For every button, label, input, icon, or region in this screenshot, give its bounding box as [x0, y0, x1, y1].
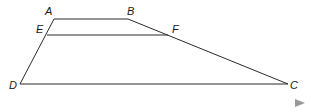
label-d: D — [9, 79, 17, 91]
label-b: B — [127, 5, 134, 17]
label-f: F — [172, 23, 180, 35]
next-arrow-icon[interactable] — [295, 99, 305, 107]
label-e: E — [36, 23, 44, 35]
trapezoid-diagram: A B E F D C — [0, 0, 309, 107]
label-a: A — [44, 5, 52, 17]
segment-bc — [128, 19, 288, 84]
label-c: C — [290, 79, 298, 91]
